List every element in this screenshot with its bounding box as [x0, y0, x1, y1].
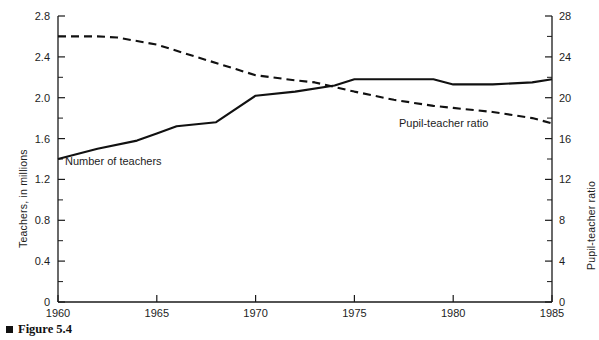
series-label-pupil-teacher-ratio: Pupil-teacher ratio	[399, 117, 488, 129]
y-axis-right-minor-ticks	[547, 36, 552, 281]
y-axis-left-tick-label: 0.4	[10, 255, 50, 267]
y-axis-right-tick-label: 12	[559, 173, 599, 185]
x-axis-tick-label: 1985	[540, 307, 564, 319]
y-axis-left-tick-label: 1.6	[10, 133, 50, 145]
x-axis-tick-label: 1965	[145, 307, 169, 319]
y-axis-left-tick-label: 2.4	[10, 51, 50, 63]
y-axis-right-tick-label: 28	[559, 10, 599, 22]
y-axis-left-tick-label: 2.8	[10, 10, 50, 22]
x-axis-tick-label: 1980	[441, 307, 465, 319]
y-axis-right-tick-label: 16	[559, 133, 599, 145]
x-axis-tick-label: 1960	[46, 307, 70, 319]
y-axis-left-tick-label: 0	[10, 296, 50, 308]
y-axis-right-tick-label: 24	[559, 51, 599, 63]
y-axis-right-tick-label: 8	[559, 214, 599, 226]
figure-caption-text: Figure 5.4	[18, 322, 72, 337]
series-line-pupil-teacher-ratio	[58, 36, 552, 123]
y-axis-right-tick-label: 0	[559, 296, 599, 308]
x-axis-tick-label: 1970	[243, 307, 267, 319]
x-axis-tick-label: 1975	[342, 307, 366, 319]
y-axis-left-title: Teachers, in millions	[17, 149, 29, 248]
y-axis-right-tick-label: 4	[559, 255, 599, 267]
series-label-number-of-teachers: Number of teachers	[65, 155, 162, 167]
x-axis-ticks	[58, 295, 552, 302]
y-axis-left-tick-label: 2.0	[10, 92, 50, 104]
square-bullet-icon	[6, 326, 13, 333]
y-axis-left-tick-label: 1.2	[10, 173, 50, 185]
y-axis-left-tick-label: 0.8	[10, 214, 50, 226]
y-axis-right-tick-label: 20	[559, 92, 599, 104]
figure-caption: Figure 5.4	[6, 322, 72, 337]
